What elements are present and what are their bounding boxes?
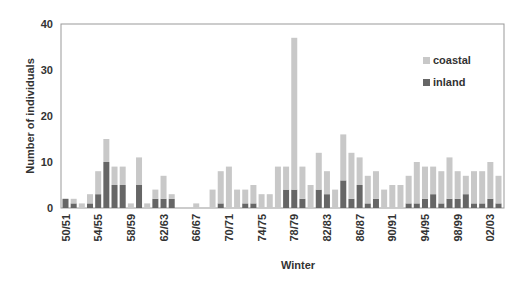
- bar-coastal: [496, 176, 502, 204]
- bar-coastal: [406, 176, 412, 204]
- bar-coastal: [365, 176, 371, 204]
- bar-coastal: [446, 157, 452, 198]
- bar-inland: [340, 180, 346, 208]
- bar-coastal: [103, 139, 109, 162]
- bar-coastal: [112, 167, 118, 185]
- bar-coastal: [79, 203, 85, 208]
- bar-inland: [479, 203, 485, 208]
- x-tick-label: 50/51: [60, 214, 72, 242]
- bar-coastal: [226, 167, 232, 208]
- bar-coastal: [471, 171, 477, 203]
- x-tick-label: 70/71: [223, 214, 235, 242]
- bar-inland: [87, 203, 93, 208]
- bar-coastal: [152, 190, 158, 199]
- bar-inland: [373, 199, 379, 208]
- bar-inland: [218, 203, 224, 208]
- bar-inland: [242, 203, 248, 208]
- bar-coastal: [455, 171, 461, 199]
- y-tick-label: 10: [41, 156, 53, 168]
- x-tick-label: 78/79: [288, 214, 300, 242]
- bar-coastal: [340, 134, 346, 180]
- bar-coastal: [120, 167, 126, 185]
- y-tick-label: 0: [47, 202, 53, 214]
- bar-inland: [152, 199, 158, 208]
- legend-swatch-coastal: [423, 57, 430, 64]
- bar-coastal: [95, 171, 101, 194]
- bar-coastal: [144, 203, 150, 208]
- bar-coastal: [373, 171, 379, 199]
- y-axis: 010203040: [41, 18, 53, 214]
- bar-coastal: [308, 185, 314, 208]
- y-tick-label: 20: [41, 110, 53, 122]
- x-tick-label: 90/91: [386, 214, 398, 242]
- bar-coastal: [299, 167, 305, 199]
- bar-inland: [438, 203, 444, 208]
- bar-inland: [496, 203, 502, 208]
- bar-coastal: [210, 190, 216, 208]
- bar-coastal: [291, 38, 297, 190]
- bar-coastal: [422, 167, 428, 199]
- bar-inland: [406, 203, 412, 208]
- bar-coastal: [136, 157, 142, 185]
- x-tick-label: 94/95: [419, 214, 431, 242]
- bar-coastal: [128, 203, 134, 208]
- x-tick-label: 62/63: [158, 214, 170, 242]
- bar-coastal: [193, 203, 199, 208]
- plot-area: [61, 24, 504, 208]
- bar-inland: [283, 190, 289, 208]
- x-tick-label: 58/59: [125, 214, 137, 242]
- bar-coastal: [267, 194, 273, 208]
- bar-inland: [348, 199, 354, 208]
- bar-coastal: [389, 185, 395, 208]
- bar-coastal: [169, 194, 175, 199]
- bar-coastal: [438, 171, 444, 203]
- bar-inland: [365, 203, 371, 208]
- legend-label-inland: inland: [433, 76, 465, 88]
- bar-coastal: [316, 153, 322, 190]
- bar-coastal: [414, 162, 420, 203]
- bar-inland: [357, 185, 363, 208]
- x-tick-label: 82/83: [321, 214, 333, 242]
- bar-inland: [95, 194, 101, 208]
- bar-inland: [161, 199, 167, 208]
- bar-coastal: [324, 171, 330, 194]
- bar-inland: [455, 199, 461, 208]
- bar-inland: [103, 162, 109, 208]
- x-tick-label: 02/03: [484, 214, 496, 242]
- bar-coastal: [250, 185, 256, 203]
- bar-inland: [487, 199, 493, 208]
- bar-inland: [112, 185, 118, 208]
- bar-coastal: [242, 190, 248, 204]
- bar-inland: [463, 194, 469, 208]
- bar-coastal: [357, 157, 363, 185]
- x-tick-label: 74/75: [256, 214, 268, 242]
- bar-inland: [316, 190, 322, 208]
- x-axis-title: Winter: [281, 259, 316, 271]
- bar-inland: [250, 203, 256, 208]
- bar-coastal: [463, 176, 469, 194]
- bar-inland: [299, 199, 305, 208]
- bar-coastal: [218, 171, 224, 203]
- legend-label-coastal: coastal: [433, 54, 471, 66]
- plot-frame: [61, 24, 504, 208]
- bar-coastal: [71, 199, 77, 204]
- bar-inland: [414, 203, 420, 208]
- bar-coastal: [161, 176, 167, 199]
- x-tick-label: 66/67: [190, 214, 202, 242]
- bar-inland: [422, 199, 428, 208]
- legend: coastal inland: [423, 54, 471, 88]
- bar-coastal: [234, 190, 240, 208]
- bar-inland: [291, 190, 297, 208]
- bar-coastal: [430, 167, 436, 195]
- y-axis-title: Number of individuals: [24, 58, 36, 174]
- bar-inland: [169, 199, 175, 208]
- bar-coastal: [283, 167, 289, 190]
- y-tick-label: 30: [41, 64, 53, 76]
- bar-inland: [430, 194, 436, 208]
- bar-inland: [63, 199, 69, 208]
- bar-coastal: [479, 171, 485, 203]
- bar-inland: [471, 203, 477, 208]
- bar-coastal: [487, 162, 493, 199]
- bar-inland: [71, 203, 77, 208]
- bar-coastal: [332, 190, 338, 208]
